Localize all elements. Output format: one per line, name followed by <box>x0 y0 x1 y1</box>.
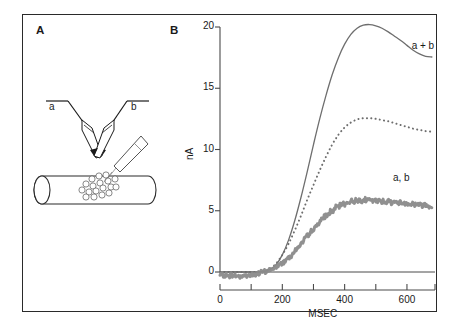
x-tick-label-200: 200 <box>267 294 297 305</box>
chart-axes <box>215 27 435 290</box>
panel-a-diagram <box>24 16 164 206</box>
x-tick-label-600: 600 <box>392 294 422 305</box>
x-axis-title: MSEC <box>293 308 353 319</box>
curve-a-plus-b <box>220 25 432 273</box>
y-tick-label-20: 20 <box>190 20 214 31</box>
curve-annotation-a-comma-b: a, b <box>393 172 410 183</box>
pipette-c <box>114 136 148 172</box>
electrode-b-label: b <box>131 101 137 112</box>
chart-curves <box>220 25 432 279</box>
bottom-edge-artifact <box>26 315 28 322</box>
x-tick-label-400: 400 <box>330 294 360 305</box>
curve-dotted <box>220 118 432 272</box>
y-tick-label-0: 0 <box>190 265 214 276</box>
electrode-b-leader <box>110 101 149 126</box>
figure-root: A <box>0 0 456 325</box>
x-tick-label-0: 0 <box>205 294 235 305</box>
y-axis-title: nA <box>184 147 195 159</box>
y-tick-label-15: 15 <box>190 81 214 92</box>
y-tick-label-5: 5 <box>190 204 214 215</box>
curve-a-comma-b <box>220 197 432 278</box>
curve-annotation-a-plus-b: a + b <box>412 40 435 51</box>
electrode-a-label: a <box>49 101 55 112</box>
